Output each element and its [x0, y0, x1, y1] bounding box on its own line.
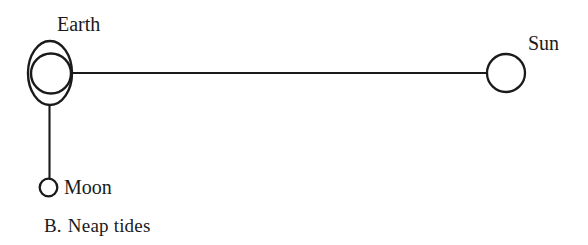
neap-tides-figure: Earth Sun Moon B.Neap tides: [0, 0, 588, 245]
figure-caption: B.Neap tides: [44, 216, 151, 235]
sun-body: [487, 54, 525, 92]
sun-label: Sun: [528, 33, 559, 53]
diagram-canvas: [0, 0, 588, 245]
earth-label: Earth: [57, 14, 100, 34]
moon-body: [40, 179, 58, 197]
moon-label: Moon: [64, 177, 112, 197]
earth-body: [31, 54, 71, 94]
caption-text: Neap tides: [68, 215, 151, 236]
caption-letter: B.: [44, 215, 62, 236]
